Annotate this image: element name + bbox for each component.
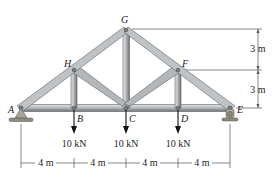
truss-diagram: A B C D E F G H 10 kN 10 kN 10 kN 4 m 4 … bbox=[0, 0, 273, 184]
pin-C bbox=[124, 106, 128, 110]
label-D: D bbox=[180, 113, 189, 124]
member-FC bbox=[124, 66, 180, 106]
load-labels: 10 kN 10 kN 10 kN bbox=[62, 138, 191, 149]
label-B: B bbox=[77, 113, 83, 124]
dim-label-h2: 4 m bbox=[90, 157, 106, 168]
load-label-C: 10 kN bbox=[114, 138, 139, 149]
dim-label-v2: 3 m bbox=[250, 84, 266, 95]
pin-B bbox=[72, 106, 76, 110]
label-E: E bbox=[236, 104, 243, 115]
dim-label-h4: 4 m bbox=[194, 157, 210, 168]
pin-H bbox=[72, 68, 76, 72]
label-H: H bbox=[63, 58, 72, 69]
dim-label-v1: 3 m bbox=[250, 43, 266, 54]
load-label-D: 10 kN bbox=[166, 138, 191, 149]
truss-members bbox=[17, 27, 235, 112]
member-HB bbox=[71, 70, 77, 108]
label-F: F bbox=[181, 58, 189, 69]
member-HC bbox=[72, 66, 128, 106]
dim-label-h1: 4 m bbox=[38, 157, 54, 168]
label-A: A bbox=[7, 104, 15, 115]
label-C: C bbox=[129, 113, 136, 124]
arrow-down-icon bbox=[175, 126, 181, 134]
member-FD bbox=[175, 70, 181, 108]
label-G: G bbox=[121, 14, 128, 25]
pin-F bbox=[176, 68, 180, 72]
load-label-B: 10 kN bbox=[62, 138, 87, 149]
load-arrows bbox=[71, 110, 181, 134]
member-GC bbox=[123, 31, 130, 108]
arrow-down-icon bbox=[123, 126, 129, 134]
dim-label-h3: 4 m bbox=[142, 157, 158, 168]
pin-D bbox=[176, 106, 180, 110]
pin-G bbox=[124, 28, 128, 32]
arrow-down-icon bbox=[71, 126, 77, 134]
